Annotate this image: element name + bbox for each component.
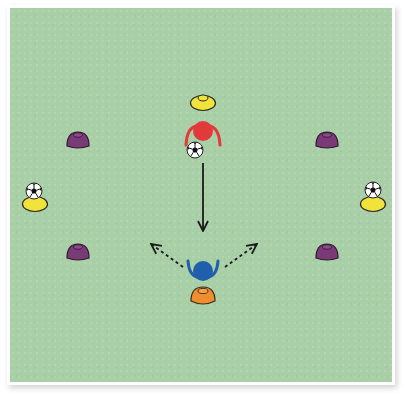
cone-top-right-purple [316, 132, 338, 148]
drill-overlay [0, 0, 405, 396]
soccer-ball-icon [26, 183, 42, 199]
player-blue-defender [188, 261, 218, 281]
move-right-arrow [225, 244, 257, 267]
cone-bottom-right-purple [316, 244, 338, 260]
cone-top-yellow [191, 95, 216, 111]
soccer-ball-icon [187, 142, 203, 158]
cone-top-left-purple [67, 132, 89, 148]
player-red-attacker [186, 121, 220, 145]
soccer-ball-icon [365, 182, 381, 198]
cone-right-yellow [361, 197, 386, 212]
move-left-arrow [151, 244, 183, 267]
cone-bottom-left-purple [67, 244, 89, 260]
cone-bottom-orange [191, 287, 215, 304]
